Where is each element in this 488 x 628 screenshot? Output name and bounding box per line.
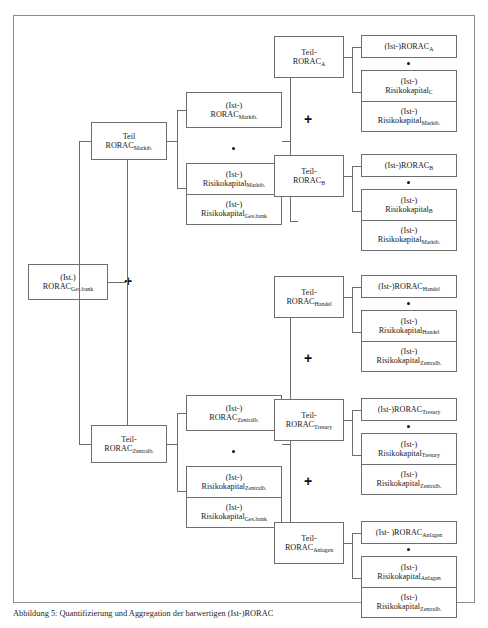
connector-teil-tresury-out: [344, 420, 352, 421]
node-line-1: Teil: [123, 132, 136, 141]
node-line-2: RORACTresury: [286, 420, 332, 429]
denominator-line-1: (Ist-): [401, 470, 417, 479]
node-teil-rorac-anlagen: Teil- RORACAnlagen: [274, 522, 344, 564]
numerator-line-2: RisikokapitalMarktb.: [203, 179, 266, 188]
connector-to-factor-b: [352, 166, 361, 167]
fraction-denominator: (Ist-) RisikokapitalZentralb.: [362, 465, 456, 495]
node-teil-rorac-marktb: Teil RORACMarktb.: [91, 122, 167, 160]
caption-prefix: Abbildung 5:: [13, 609, 57, 618]
numerator-line-1: (Ist-): [401, 317, 417, 326]
fraction-numerator: (Ist-) RisikokapitalC: [362, 71, 456, 102]
fraction-denominator: (Ist-) RisikokapitalGes.bank: [187, 195, 281, 225]
connector-term-b-brace: [352, 166, 353, 211]
node-line-1: (Ist-): [226, 404, 242, 413]
denominator-line-2: RisikokapitalMarktb.: [378, 235, 441, 244]
node-ist-rorac-b: (Ist-)RORACB: [361, 154, 457, 177]
connector-root-to-plus: [108, 282, 126, 283]
node-teil-rorac-a: Teil- RORACA: [274, 36, 344, 78]
numerator-line-1: (Ist-): [226, 473, 242, 482]
node-line-1: Teil-: [301, 167, 316, 176]
numerator-line-1: (Ist-): [401, 440, 417, 449]
fraction-numerator: (Ist-) RisikokapitalB: [362, 190, 456, 221]
node-line-1: Teil-: [301, 534, 316, 543]
numerator-line-1: (Ist-): [226, 170, 242, 179]
denominator-line-2: RisikokapitalZentralb.: [376, 356, 441, 365]
connector-zentralb-brace: [177, 413, 178, 491]
numerator-line-2: RisikokapitalAnlagen: [377, 572, 441, 581]
connector-teil-a-out: [344, 57, 352, 58]
connector-to-teil-b: [290, 221, 298, 222]
numerator-line-2: RisikokapitalZentralb.: [201, 482, 266, 491]
connector-to-fraction-tresury: [352, 455, 361, 456]
node-line-2: RORACMarktb.: [210, 110, 257, 119]
connector-zentralb-out: [167, 444, 177, 445]
denominator-line-1: (Ist-): [226, 200, 242, 209]
connector-term-tresury-brace: [352, 410, 353, 455]
denominator-line-2: RisikokapitalGes.bank: [201, 512, 267, 521]
fraction-numerator: (Ist-) RisikokapitalTresury: [362, 434, 456, 465]
node-line-1: (Ist-): [226, 101, 242, 110]
node-ist-rorac-a: (Ist-)RORACA: [361, 35, 457, 58]
connector-teil-handel-out: [344, 297, 352, 298]
numerator-line-2: RisikokapitalHandel: [379, 326, 440, 335]
fraction-risikokapital-handel: (Ist-) RisikokapitalHandel (Ist-) Risiko…: [361, 310, 457, 372]
connector-term-a-brace: [352, 47, 353, 92]
operator-plus-handel-tresury: +: [304, 351, 312, 365]
figure-page: (Ist.) RORACGes.bank + Teil RORACMarktb.…: [0, 0, 488, 628]
connector-left-rail: [79, 141, 80, 444]
fraction-denominator: (Ist-) RisikokapitalMarktb.: [362, 221, 456, 251]
node-line-1: (Ist.): [60, 273, 76, 282]
connector-term-anlagen-brace: [352, 533, 353, 578]
node-line-2: RORACB: [293, 176, 325, 185]
connector-to-fraction-handel: [352, 332, 361, 333]
connector-marktb-brace: [177, 110, 178, 188]
node-line-2: RORACMarktb.: [105, 141, 152, 150]
node-line-1: Teil-: [301, 288, 316, 297]
connector-to-fraction-anlagen: [352, 578, 361, 579]
connector-to-fraction-b: [352, 211, 361, 212]
denominator-line-2: RisikokapitalMarktb.: [378, 116, 441, 125]
node-line-2: RORACAnlagen: [285, 543, 333, 552]
denominator-line-2: RisikokapitalGes.bank: [201, 209, 267, 218]
numerator-line-1: (Ist-): [401, 77, 417, 86]
node-line-1: (Ist-)RORACB: [385, 161, 434, 170]
node-teil-rorac-handel: Teil- RORACHandel: [274, 276, 344, 318]
node-line-2: RORACGes.bank: [43, 282, 93, 291]
operator-plus-ab: +: [304, 112, 312, 126]
fraction-numerator: (Ist-) RisikokapitalAnlagen: [362, 557, 456, 588]
node-line-2: RORACA: [293, 57, 325, 66]
fraction-denominator: (Ist-) RisikokapitalZentralb.: [362, 342, 456, 372]
node-ist-rorac-tresury: (Ist-)RORACTresury: [361, 398, 457, 421]
operator-plus-tresury-anlagen: +: [304, 474, 312, 488]
fraction-risikokapital-b: (Ist-) RisikokapitalB (Ist-) Risikokapit…: [361, 189, 457, 251]
node-line-2: RORACZentralb.: [209, 413, 259, 422]
fraction-risikokapital-marktb: (Ist-) RisikokapitalMarktb. (Ist-) Risik…: [186, 163, 282, 225]
node-ist-rorac-anlagen: (Ist- )RORACAnlagen: [361, 521, 457, 544]
connector-teil-b-out: [344, 176, 352, 177]
connector-left-rail-to-zentralb-box: [79, 444, 91, 445]
connector-left-rail-to-marktb-box: [79, 141, 91, 142]
denominator-line-1: (Ist-): [401, 347, 417, 356]
fraction-risikokapital-tresury: (Ist-) RisikokapitalTresury (Ist-) Risik…: [361, 433, 457, 495]
node-line-1: (Ist-)RORACHandel: [378, 282, 440, 291]
node-line-1: Teil-: [121, 435, 136, 444]
node-teil-rorac-zentralb: Teil- RORACZentralb.: [91, 425, 167, 463]
connector-to-factor-anlagen: [352, 533, 361, 534]
node-ist-rorac-marktb: (Ist-) RORACMarktb.: [186, 92, 282, 128]
numerator-line-2: RisikokapitalTresury: [378, 449, 440, 458]
connector-zentralb-to-factor: [177, 413, 186, 414]
fraction-denominator: (Ist-) RisikokapitalGes.bank: [187, 498, 281, 528]
node-line-1: (Ist-)RORACA: [385, 42, 434, 51]
fraction-risikokapital-zentralb: (Ist-) RisikokapitalZentralb. (Ist-) Ris…: [186, 466, 282, 528]
connector-zentralb-to-fraction: [177, 491, 186, 492]
numerator-line-2: RisikokapitalC: [385, 86, 433, 95]
caption-text: Quantifizierung und Aggregation der barw…: [60, 609, 274, 618]
connector-teil-anlagen-out: [344, 543, 352, 544]
denominator-line-1: (Ist-): [401, 593, 417, 602]
connector-to-fraction-a: [352, 92, 361, 93]
node-teil-rorac-b: Teil- RORACB: [274, 155, 344, 197]
connector-marktb-to-fraction: [177, 188, 186, 189]
figure-caption: Abbildung 5: Quantifizierung und Aggrega…: [13, 609, 475, 620]
operator-plus-root: +: [124, 274, 132, 288]
node-teil-rorac-tresury: Teil- RORACTresury: [274, 399, 344, 441]
